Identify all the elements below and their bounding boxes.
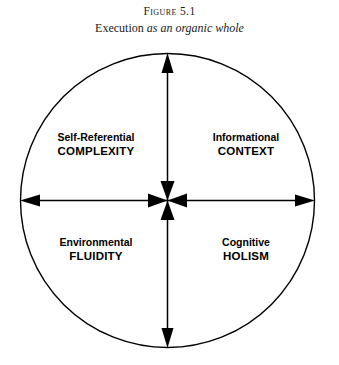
vertical-axis-arrowhead-up-inner (161, 201, 175, 221)
quadrant-top-left-line2: COMPLEXITY (36, 145, 156, 159)
figure-container: Figure 5.1 Execution as an organic whole (0, 0, 339, 365)
quadrant-bottom-left-line1: Environmental (36, 236, 156, 250)
quadrant-label-bottom-right: Cognitive HOLISM (186, 236, 306, 263)
organic-whole-diagram (0, 0, 339, 365)
quadrant-top-left-line1: Self-Referential (36, 131, 156, 145)
quadrant-bottom-right-line2: HOLISM (186, 250, 306, 264)
quadrant-bottom-right-line1: Cognitive (186, 236, 306, 250)
vertical-axis-arrowhead-down-outer (162, 328, 174, 348)
quadrant-bottom-left-line2: FLUIDITY (36, 250, 156, 264)
vertical-axis-arrowhead-down-inner (161, 181, 175, 201)
vertical-axis-arrowhead-up-outer (162, 53, 174, 73)
horizontal-axis-arrowhead-right-inner (148, 194, 168, 208)
quadrant-top-right-line1: Informational (186, 131, 306, 145)
quadrant-label-top-right: Informational CONTEXT (186, 131, 306, 158)
quadrant-label-bottom-left: Environmental FLUIDITY (36, 236, 156, 263)
horizontal-axis-arrowhead-right-outer (295, 195, 315, 207)
quadrant-top-right-line2: CONTEXT (186, 145, 306, 159)
quadrant-label-top-left: Self-Referential COMPLEXITY (36, 131, 156, 158)
horizontal-axis-arrowhead-left-inner (168, 194, 188, 208)
horizontal-axis-arrowhead-left-outer (20, 195, 40, 207)
